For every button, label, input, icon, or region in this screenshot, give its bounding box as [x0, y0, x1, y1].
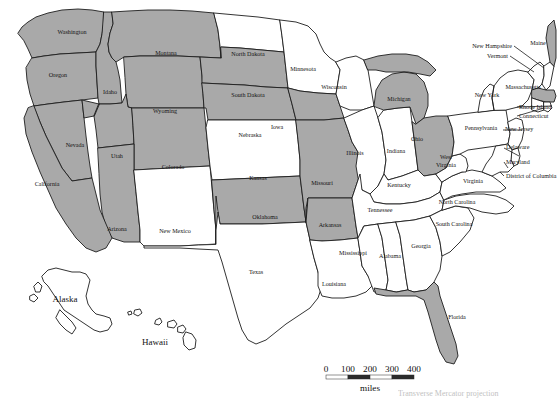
label-louisiana: Louisiana [322, 281, 346, 287]
state-maine[interactable] [546, 20, 556, 66]
state-minnesota[interactable] [280, 20, 340, 94]
leader-line-new-hampshire [514, 46, 544, 68]
state-kansas[interactable] [206, 120, 300, 180]
label-vermont: Vermont [487, 53, 508, 59]
scale-tick-300: 300 [385, 364, 399, 374]
label-hawaii: Hawaii [142, 337, 168, 347]
label-tennessee: Tennessee [368, 207, 393, 213]
state-colorado[interactable] [132, 108, 210, 170]
label-pennsylvania: Pennsylvania [465, 125, 498, 131]
label-alabama: Alabama [379, 253, 401, 259]
label-south-dakota: South Dakota [231, 92, 265, 98]
label-washington: Washington [58, 29, 87, 35]
label-florida: Florida [448, 314, 466, 320]
label-west-virginia-line2: Virginia [436, 162, 456, 168]
label-ohio: Ohio [411, 136, 423, 142]
label-utah: Utah [111, 153, 123, 159]
label-new-jersey: New Jersey [505, 126, 534, 132]
label-massachusetts: Massachusetts [505, 84, 541, 90]
scale-segment-2 [348, 375, 370, 379]
scale-tick-0: 0 [324, 364, 329, 374]
label-delaware: Delaware [506, 144, 530, 150]
state-wyoming[interactable] [124, 56, 204, 108]
label-new-hampshire: New Hampshire [472, 43, 512, 49]
footnote-text: Transverse Mercator projection [398, 389, 557, 399]
label-maryland: Maryland [506, 159, 530, 165]
label-missouri: Missouri [311, 180, 333, 186]
scale-tick-400: 400 [407, 364, 421, 374]
label-new-mexico: New Mexico [159, 228, 191, 234]
scale-segment-4 [392, 375, 414, 379]
label-arizona: Arizona [107, 226, 127, 232]
label-maine: Maine [530, 40, 546, 46]
leader-line-district-of-columbia [500, 172, 504, 176]
state-florida[interactable] [374, 282, 458, 364]
label-rhode-island: Rhode Island [519, 104, 551, 110]
state-new-hampshire[interactable] [542, 62, 554, 90]
label-arkansas: Arkansas [319, 222, 342, 228]
state-arkansas[interactable] [306, 198, 358, 241]
label-montana: Montana [155, 50, 177, 56]
label-michigan: Michigan [387, 96, 410, 102]
label-indiana: Indiana [387, 148, 406, 154]
scale-unit-label: miles [360, 383, 380, 393]
us-map: Washington Oregon Idaho Montana Wyoming … [0, 0, 557, 399]
label-nevada: Nevada [66, 142, 85, 148]
label-georgia: Georgia [411, 243, 431, 249]
label-virginia: Virginia [463, 178, 483, 184]
label-kansas: Kansas [249, 175, 267, 181]
label-illinois: Illinois [346, 150, 364, 156]
label-south-carolina: South Carolina [436, 221, 473, 227]
scale-segment-3 [370, 375, 392, 379]
label-district-of-columbia: District of Columbia [506, 173, 557, 179]
label-wisconsin: Wisconsin [321, 84, 346, 90]
scale-tick-200: 200 [363, 364, 377, 374]
label-new-york: New York [475, 92, 501, 98]
label-iowa: Iowa [271, 124, 283, 130]
label-oklahoma: Oklahoma [252, 214, 278, 220]
label-mississippi: Mississippi [339, 250, 367, 256]
label-north-carolina: North Carolina [439, 199, 476, 205]
us-map-canvas: Washington Oregon Idaho Montana Wyoming … [0, 0, 557, 399]
label-nebraska: Nebraska [238, 132, 261, 138]
label-california: California [35, 181, 60, 187]
scale-segment-1 [326, 375, 348, 379]
label-kentucky: Kentucky [387, 182, 412, 188]
label-alaska: Alaska [53, 294, 78, 304]
label-oregon: Oregon [49, 72, 67, 78]
state-oregon[interactable] [26, 52, 98, 106]
label-idaho: Idaho [103, 89, 117, 95]
label-north-dakota: North Dakota [231, 51, 265, 57]
label-colorado: Colorado [162, 164, 185, 170]
label-wyoming: Wyoming [153, 108, 177, 114]
label-texas: Texas [249, 269, 264, 275]
scale-tick-100: 100 [341, 364, 355, 374]
label-west-virginia-line1: West [440, 154, 452, 160]
state-nebraska[interactable] [202, 83, 296, 120]
label-minnesota: Minnesota [290, 66, 316, 72]
